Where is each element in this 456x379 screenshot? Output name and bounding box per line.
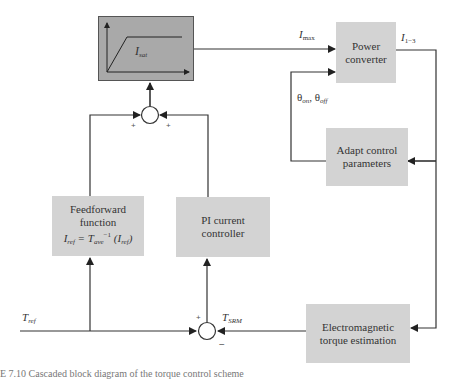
power-converter-block: Power converter xyxy=(336,22,396,83)
top-junction-right-sign: + xyxy=(166,121,171,130)
summing-junction-top xyxy=(142,107,159,124)
signal-theta-label: θon, θoff xyxy=(297,91,327,105)
signal-i13-label: I1−3 xyxy=(401,31,416,45)
signal-tref-label: Tref xyxy=(22,311,36,325)
feedforward-title: Feedforward xyxy=(70,203,126,216)
signal-imax-label: Imax xyxy=(299,28,315,42)
top-junction-left-sign: + xyxy=(131,121,136,130)
bottom-junction-bottom-sign: − xyxy=(219,339,225,350)
feedforward-subtitle: function xyxy=(80,216,117,229)
pi-current-controller-block: PI current controller xyxy=(176,197,270,257)
torque-estimation-block: Electromagnetic torque estimation xyxy=(306,304,410,363)
feedforward-equation: Iref = Tave−1 (Iref) xyxy=(64,229,133,249)
adapt-control-label: Adapt control parameters xyxy=(337,144,398,170)
pi-controller-label: PI current controller xyxy=(201,214,245,240)
summing-junction-bottom xyxy=(199,323,216,340)
feedforward-block: Feedforward function Iref = Tave−1 (Iref… xyxy=(52,196,144,256)
torque-estimation-label: Electromagnetic torque estimation xyxy=(320,321,397,347)
saturation-label: Isat xyxy=(135,44,147,59)
saturation-block: Isat xyxy=(98,16,194,81)
adapt-control-parameters-block: Adapt control parameters xyxy=(326,128,408,186)
power-converter-label: Power converter xyxy=(345,40,387,66)
bottom-junction-top-sign: + xyxy=(196,313,201,322)
signal-tsrm-label: TSRM xyxy=(222,311,242,325)
figure-caption: E 7.10 Cascaded block diagram of the tor… xyxy=(0,368,244,379)
